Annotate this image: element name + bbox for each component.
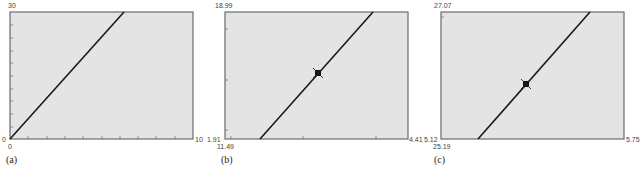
x-max-label-a: 10	[195, 136, 203, 144]
y-min-label-a: 0	[2, 136, 6, 144]
caption-b: (b)	[221, 154, 233, 165]
x-max-label-b: 4.41	[409, 136, 423, 144]
x-min-label-a: 0	[8, 143, 12, 151]
y-max-label-a: 30	[8, 2, 16, 10]
plot-area-c	[428, 0, 643, 174]
caption-c: (c)	[434, 154, 445, 165]
y-max-label-b: 18.99	[215, 2, 233, 10]
caption-a: (a)	[6, 154, 17, 165]
chart-panel-a: 30 0 0 10 (a)	[0, 0, 215, 174]
y-max-label-c: 27.07	[434, 2, 452, 10]
chart-panel-c: 27.07 5.12 25.19 5.75 (c)	[428, 0, 643, 174]
y-min-label-c: 25.19	[433, 143, 451, 151]
x-max-label-c: 5.75	[626, 136, 640, 144]
chart-panel-b: 18.99 1.91 11.49 4.41 (b)	[215, 0, 430, 174]
plot-area-a	[0, 0, 215, 174]
plot-area-b	[215, 0, 430, 174]
y-min-label-b: 11.49	[217, 143, 234, 151]
